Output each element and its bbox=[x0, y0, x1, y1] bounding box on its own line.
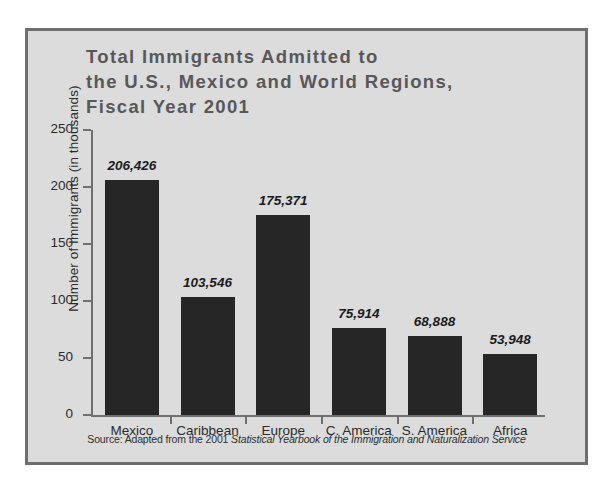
bar-value-label: 103,546 bbox=[183, 275, 232, 290]
y-axis-tick bbox=[83, 129, 91, 131]
bar-value-label: 53,948 bbox=[490, 332, 531, 347]
bar[interactable]: 53,948 bbox=[483, 354, 537, 416]
y-axis-tick-label: 50 bbox=[29, 349, 73, 364]
x-axis-tick bbox=[245, 415, 247, 424]
bar[interactable]: 175,371 bbox=[256, 215, 310, 415]
y-axis-tick-label: 150 bbox=[29, 235, 73, 250]
y-axis-tick bbox=[83, 300, 91, 302]
bar[interactable]: 68,888 bbox=[408, 336, 462, 415]
x-axis-tick bbox=[472, 415, 474, 424]
bar[interactable]: 206,426 bbox=[105, 180, 159, 415]
bar-value-label: 175,371 bbox=[259, 193, 308, 208]
x-axis-tick bbox=[397, 415, 399, 424]
y-axis-tick bbox=[83, 186, 91, 188]
y-axis-tick-label: 200 bbox=[29, 178, 73, 193]
x-axis-line bbox=[91, 415, 545, 417]
bar[interactable]: 103,546 bbox=[181, 297, 235, 415]
source-note-prefix: Source: Adapted from the 2001 bbox=[87, 433, 231, 445]
source-note: Source: Adapted from the 2001 Statistica… bbox=[28, 433, 585, 445]
y-axis-tick-label: 0 bbox=[29, 406, 73, 421]
page-title: Total Immigrants Admitted to the U.S., M… bbox=[86, 44, 556, 119]
y-axis-tick bbox=[83, 414, 91, 416]
bar-value-label: 68,888 bbox=[414, 314, 455, 329]
y-axis-tick bbox=[83, 357, 91, 359]
bar[interactable]: 75,914 bbox=[332, 328, 386, 415]
x-axis-tick bbox=[170, 415, 172, 424]
source-note-title: Statistical Yearbook of the Immigration … bbox=[231, 433, 526, 445]
y-axis-line bbox=[91, 130, 93, 417]
bar-value-label: 75,914 bbox=[338, 306, 379, 321]
y-axis-tick-label: 100 bbox=[29, 292, 73, 307]
y-axis-tick-label: 250 bbox=[29, 121, 73, 136]
bar-value-label: 206,426 bbox=[107, 158, 156, 173]
x-axis-tick bbox=[321, 415, 323, 424]
plot-area: 050100150200250 206,426103,546175,37175,… bbox=[91, 130, 545, 417]
y-axis-tick bbox=[83, 243, 91, 245]
chart-figure: Total Immigrants Admitted to the U.S., M… bbox=[25, 28, 588, 465]
